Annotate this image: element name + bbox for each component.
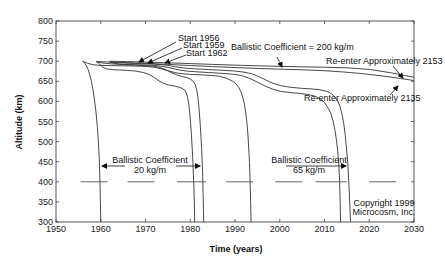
y-tick-label: 500 [38, 137, 53, 147]
x-tick-label: 1980 [180, 224, 200, 234]
bc-65-value: 65 kg/m [293, 165, 325, 175]
bc-20-value: 20 kg/m [134, 165, 166, 175]
x-tick-label: 1960 [91, 224, 111, 234]
bc-200-label: Ballistic Coefficient = 200 kg/m [231, 42, 354, 52]
y-tick-label: 700 [38, 56, 53, 66]
y-tick-label: 600 [38, 96, 53, 106]
altitude-decay-chart: 1950196019701980199020002010202020303003… [0, 0, 445, 270]
reenter-2135-label: Re-enter Approximately 2135 [304, 93, 421, 103]
reenter-2153-label: Re-enter Approximately 2153 [326, 56, 443, 66]
x-tick-label: 2030 [404, 224, 424, 234]
decay-curve [110, 62, 204, 222]
y-axis-title: Altitude (km) [14, 94, 24, 149]
y-tick-label: 350 [38, 197, 53, 207]
y-tick-label: 300 [38, 217, 53, 227]
decay-curve [83, 61, 251, 222]
decay-curve [83, 61, 101, 222]
x-tick-label: 2020 [359, 224, 379, 234]
x-axis-title: Time (years) [210, 244, 263, 254]
x-tick-label: 2010 [314, 224, 334, 234]
start-1962-label: Start 1962 [186, 48, 228, 58]
y-tick-label: 800 [38, 16, 53, 26]
bc-20-title: Ballistic Coefficient [112, 155, 188, 165]
bc-65-title: Ballistic Coefficient [271, 155, 347, 165]
y-tick-label: 750 [38, 36, 53, 46]
x-tick-label: 1990 [225, 224, 245, 234]
decay-curve [96, 61, 194, 222]
y-tick-label: 400 [38, 177, 53, 187]
y-tick-label: 650 [38, 76, 53, 86]
copyright-line-2: Microcosm, Inc. [352, 207, 415, 217]
x-tick-label: 1970 [135, 224, 155, 234]
decay-curve [96, 62, 340, 222]
x-tick-label: 2000 [270, 224, 290, 234]
y-tick-label: 450 [38, 157, 53, 167]
y-tick-label: 550 [38, 117, 53, 127]
decay-curve [110, 62, 351, 222]
